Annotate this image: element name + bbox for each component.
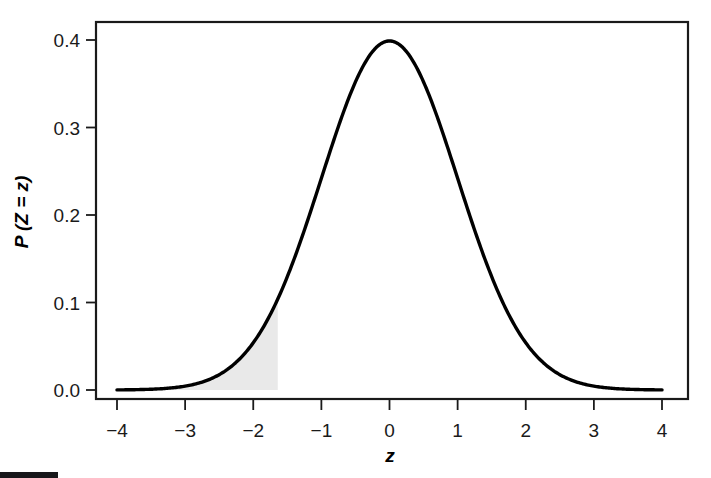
x-tick-label: −4	[106, 420, 128, 441]
x-tick-label: −2	[242, 420, 264, 441]
y-axis-tick-labels: 0.00.10.20.30.4	[54, 30, 81, 401]
normal-distribution-figure: 0.00.10.20.30.4 −4−3−2−101234 z P (Z = z…	[0, 0, 711, 478]
y-axis-ticks	[86, 40, 96, 390]
y-tick-label: 0.1	[54, 293, 80, 314]
y-tick-label: 0.2	[54, 205, 80, 226]
x-tick-label: 2	[520, 420, 531, 441]
x-tick-label: 4	[657, 420, 668, 441]
y-tick-label: 0.3	[54, 118, 80, 139]
y-tick-label: 0.0	[54, 380, 80, 401]
y-axis-title: P (Z = z)	[11, 176, 32, 249]
page-edge-artifact	[0, 472, 58, 478]
x-tick-label: 1	[452, 420, 463, 441]
normal-density-curve	[117, 41, 662, 390]
x-tick-label: 0	[384, 420, 395, 441]
x-axis-ticks	[117, 399, 662, 410]
x-axis-title: z	[384, 445, 395, 466]
plot-frame	[96, 22, 688, 399]
x-tick-label: 3	[589, 420, 600, 441]
y-tick-label: 0.4	[54, 30, 81, 51]
x-axis-tick-labels: −4−3−2−101234	[106, 420, 668, 441]
x-tick-label: −1	[311, 420, 333, 441]
x-tick-label: −3	[174, 420, 196, 441]
chart-canvas: 0.00.10.20.30.4 −4−3−2−101234 z P (Z = z…	[0, 0, 711, 478]
